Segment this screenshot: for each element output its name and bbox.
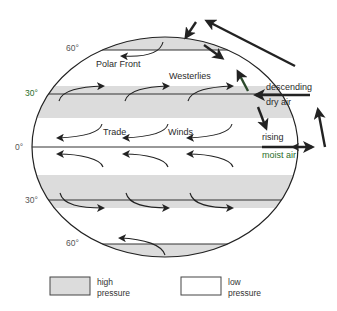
latitude-label-n60: 60° — [66, 44, 79, 53]
label-rising: rising — [262, 133, 284, 142]
label-trade: Trade — [103, 128, 126, 137]
legend-high-line2: pressure — [97, 288, 130, 298]
legend-high-line1: high — [97, 277, 113, 287]
latitude-label-eq: 0° — [15, 143, 23, 152]
label-moist-air: moist air — [262, 151, 296, 160]
label-winds: Winds — [168, 128, 193, 137]
legend-high-swatch — [50, 277, 90, 295]
label-polar-front: Polar Front — [96, 60, 141, 69]
latitude-label-s60: 60° — [66, 239, 79, 248]
latitude-label-s30: 30° — [25, 196, 38, 205]
legend-low-line1: low — [228, 277, 241, 287]
label-westerlies: Westerlies — [169, 72, 211, 81]
legend-low-swatch — [181, 277, 221, 295]
legend-low-line2: pressure — [228, 288, 261, 298]
label-descending: descending — [266, 83, 312, 92]
legend-low-label: low pressure — [228, 277, 261, 299]
latitude-label-n30: 30° — [25, 89, 38, 98]
legend-high-label: high pressure — [97, 277, 130, 299]
high-pressure-band-s30 — [30, 175, 310, 208]
label-dry-air: dry air — [266, 98, 291, 107]
